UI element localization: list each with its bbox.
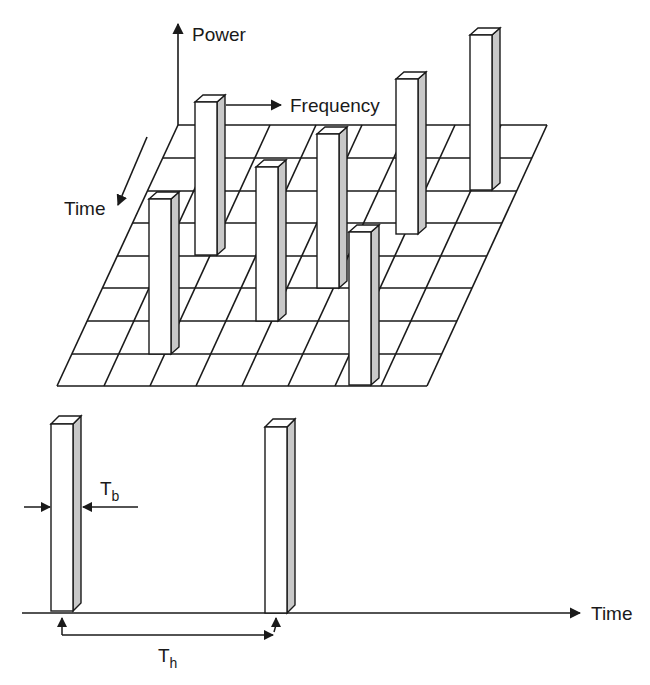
bar-hop-1 — [195, 95, 225, 255]
hop-duration-label: Th — [158, 645, 177, 671]
frequency-hopping-diagram: Power Frequency Time — [0, 0, 650, 685]
bar-hop-4 — [317, 127, 347, 288]
time-axis-label-bottom: Time — [591, 603, 633, 624]
pulse-1 — [51, 416, 81, 611]
bar-hop-5 — [349, 225, 379, 385]
hop-duration-indicator — [62, 618, 276, 635]
frequency-axis-label: Frequency — [290, 95, 380, 116]
bit-duration-label: Tb — [100, 478, 120, 504]
time-axis-diagonal — [118, 137, 147, 205]
power-bars — [149, 28, 500, 385]
power-axis-label: Power — [192, 24, 247, 45]
bar-hop-7 — [470, 28, 500, 190]
bar-hop-2 — [149, 192, 179, 354]
pulse-2 — [265, 419, 295, 613]
bar-hop-3 — [256, 160, 286, 321]
bar-hop-6 — [396, 72, 426, 234]
time-axis-label-top: Time — [64, 198, 106, 219]
pulse-bars — [51, 416, 295, 613]
